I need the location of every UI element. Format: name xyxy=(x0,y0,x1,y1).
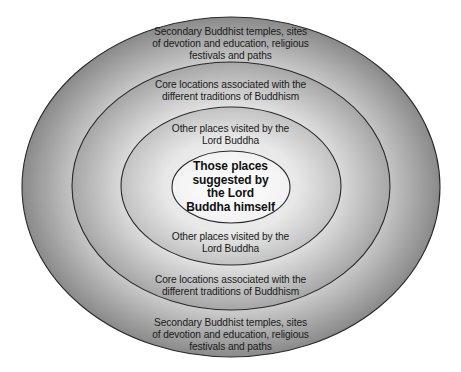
label-line: Other places visited by the xyxy=(0,231,461,243)
outer-ring-label-top: Secondary Buddhist temples, sites of dev… xyxy=(0,26,461,62)
visited-ring-label-bottom: Other places visited by the Lord Buddha xyxy=(0,231,461,255)
label-line: the Lord xyxy=(0,187,461,201)
label-line: suggested by xyxy=(0,174,461,188)
label-line: Core locations associated with the xyxy=(0,79,461,91)
label-line: of devotion and education, religious xyxy=(0,329,461,341)
core-ring-label-bottom: Core locations associated with the diffe… xyxy=(0,274,461,298)
core-ring-label-top: Core locations associated with the diffe… xyxy=(0,79,461,103)
label-line: festivals and paths xyxy=(0,341,461,353)
visited-ring-label-top: Other places visited by the Lord Buddha xyxy=(0,123,461,147)
outer-ring-label-bottom: Secondary Buddhist temples, sites of dev… xyxy=(0,317,461,353)
label-line: Those places xyxy=(0,160,461,174)
label-line: of devotion and education, religious xyxy=(0,38,461,50)
label-line: Core locations associated with the xyxy=(0,274,461,286)
center-label: Those places suggested by the Lord Buddh… xyxy=(0,160,461,214)
label-line: Secondary Buddhist temples, sites xyxy=(0,26,461,38)
label-line: Other places visited by the xyxy=(0,123,461,135)
label-line: festivals and paths xyxy=(0,50,461,62)
label-line: Lord Buddha xyxy=(0,135,461,147)
label-line: different traditions of Buddhism xyxy=(0,91,461,103)
label-line: Secondary Buddhist temples, sites xyxy=(0,317,461,329)
label-line: different traditions of Buddhism xyxy=(0,286,461,298)
label-line: Lord Buddha xyxy=(0,243,461,255)
label-line: Buddha himself xyxy=(0,201,461,215)
